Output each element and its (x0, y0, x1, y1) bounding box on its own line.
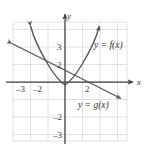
graph-figure: –3 –2 2 3 2 –2 –3 x y y = f(x) y = g(x) (0, 0, 151, 148)
curve-label-f: y = f(x) (94, 41, 123, 51)
x-tick-label-neg2: –2 (33, 85, 42, 94)
x-tick-label-2: 2 (85, 85, 90, 94)
y-axis-label: y (67, 12, 71, 21)
curve-label-g: y = g(x) (78, 101, 109, 111)
x-axis-label: x (137, 78, 141, 87)
y-tick-label-neg3: –3 (53, 131, 62, 140)
y-tick-label-3: 3 (57, 43, 62, 52)
x-tick-label-neg3: –3 (16, 85, 25, 94)
curve-g (12, 44, 121, 99)
coordinate-plane-svg (0, 0, 151, 148)
y-tick-label-neg2: –2 (53, 113, 62, 122)
y-tick-label-2: 2 (57, 61, 62, 70)
